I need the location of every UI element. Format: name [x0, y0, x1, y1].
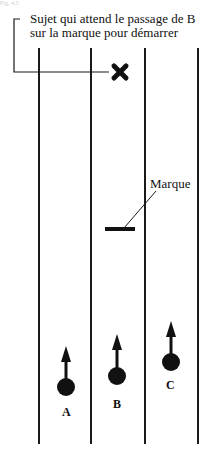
runner-c-icon	[162, 321, 180, 371]
waiting-subject-x-icon	[114, 66, 126, 78]
marque-bar	[105, 227, 135, 231]
runner-a-icon	[57, 346, 75, 396]
runner-label-c: C	[166, 378, 175, 393]
runner-label-b: B	[113, 397, 121, 412]
marque-leader-line	[124, 191, 156, 228]
callout-bracket	[14, 19, 109, 72]
runner-b-icon	[108, 334, 126, 385]
runner-label-a: A	[62, 405, 71, 420]
diagram-graphics	[0, 0, 221, 455]
marque-label: Marque	[150, 176, 190, 192]
